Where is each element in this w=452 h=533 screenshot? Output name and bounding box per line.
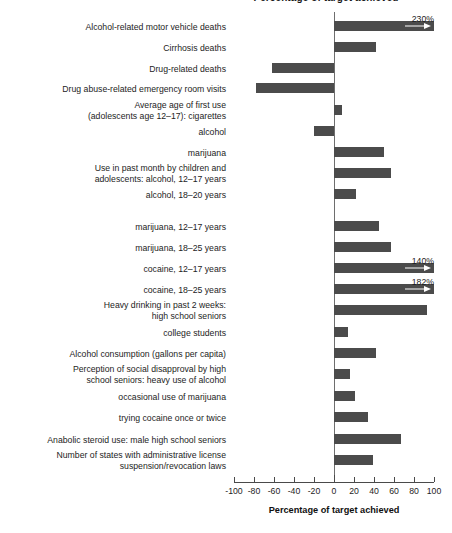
bar (334, 42, 376, 52)
x-axis-tick-label: 0 (332, 486, 337, 496)
x-axis-tick-label: 20 (349, 486, 359, 496)
bar (256, 83, 334, 93)
bar (334, 369, 350, 379)
chart-title: Percentage of target achieved (200, 0, 452, 3)
category-label: marijuana, 12–17 years (0, 222, 230, 233)
bar (334, 168, 391, 178)
x-axis-tick-label: 60 (389, 486, 399, 496)
x-axis-tick-label: 80 (409, 486, 419, 496)
category-label: alcohol (0, 127, 230, 138)
x-axis-tick-label: 100 (427, 486, 442, 496)
chart-container: Percentage of target achieved Alcohol-re… (0, 0, 452, 533)
bar (334, 434, 401, 444)
category-label: Drug-related deaths (0, 64, 230, 75)
x-axis-tick (414, 477, 415, 482)
category-label: Cirrhosis deaths (0, 43, 230, 54)
category-label: Heavy drinking in past 2 weeks: high sch… (0, 300, 230, 321)
x-axis-tick (434, 477, 435, 482)
category-label: Use in past month by children and adoles… (0, 163, 230, 184)
category-label: trying cocaine once or twice (0, 413, 230, 424)
bar (334, 412, 368, 422)
category-label: occasional use of marijuana (0, 392, 230, 403)
bar-value-annotation: 140% (394, 256, 434, 266)
x-axis-tick (394, 477, 395, 482)
bar (334, 147, 384, 157)
plot-area (234, 12, 434, 478)
bar (334, 242, 391, 252)
x-axis-tick-label: -80 (248, 486, 261, 496)
x-axis-title: Percentage of target achieved (234, 505, 434, 515)
x-axis-line (234, 482, 434, 483)
x-axis-tick (354, 477, 355, 482)
category-label: Perception of social disapproval by high… (0, 364, 230, 385)
bar (334, 348, 376, 358)
x-axis-tick (314, 477, 315, 482)
bar (334, 327, 348, 337)
x-axis-tick (274, 477, 275, 482)
bar-value-annotation: 230% (394, 14, 434, 24)
category-label: Alcohol-related motor vehicle deaths (0, 22, 230, 33)
category-label: cocaine, 18–25 years (0, 285, 230, 296)
category-label: marijuana (0, 148, 230, 159)
x-axis-tick-label: -100 (225, 486, 242, 496)
x-axis-tick-label: -60 (268, 486, 281, 496)
bar (314, 126, 334, 136)
category-label: Drug abuse-related emergency room visits (0, 84, 230, 95)
bar (334, 391, 355, 401)
category-labels: Alcohol-related motor vehicle deathsCirr… (0, 0, 230, 478)
x-axis-tick (294, 477, 295, 482)
bar (334, 189, 356, 199)
x-axis-tick-label: 40 (369, 486, 379, 496)
bar (334, 305, 427, 315)
category-label: Number of states with administrative lic… (0, 450, 230, 471)
category-label: college students (0, 328, 230, 339)
category-label: marijuana, 18–25 years (0, 243, 230, 254)
bar (334, 221, 379, 231)
category-label: Average age of first use (adolescents ag… (0, 100, 230, 121)
category-label: Anabolic steroid use: male high school s… (0, 435, 230, 446)
category-label: alcohol, 18–20 years (0, 190, 230, 201)
bar (272, 63, 334, 73)
category-label: cocaine, 12–17 years (0, 264, 230, 275)
x-axis-tick (374, 477, 375, 482)
x-axis-tick-label: -20 (308, 486, 321, 496)
x-axis-tick-label: -40 (288, 486, 301, 496)
category-label: Alcohol consumption (gallons per capita) (0, 349, 230, 360)
x-axis-tick (234, 477, 235, 482)
x-axis-tick (254, 477, 255, 482)
bar (334, 455, 373, 465)
x-axis-tick (334, 475, 335, 482)
bar (334, 105, 342, 115)
bar-value-annotation: 182% (394, 277, 434, 287)
